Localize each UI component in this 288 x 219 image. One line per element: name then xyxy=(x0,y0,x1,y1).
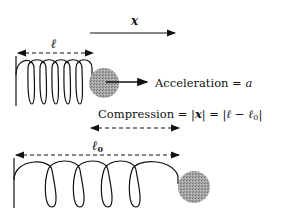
displacement-label: x xyxy=(130,14,139,28)
bottom-length-label: ℓ0 xyxy=(92,138,104,154)
bottom-mass-ball xyxy=(178,171,210,203)
spring-compression-diagram: x ℓ Acceleration = a Compression = |x| =… xyxy=(0,0,288,219)
top-mass-ball xyxy=(89,68,119,98)
acceleration-text: Acceleration = a xyxy=(154,76,252,90)
bottom-spring-coil xyxy=(14,161,178,207)
top-length-label: ℓ xyxy=(51,36,57,51)
compression-equation: Compression = |x| = |ℓ − ℓ0| xyxy=(98,107,262,122)
top-spring-coil xyxy=(16,60,92,104)
